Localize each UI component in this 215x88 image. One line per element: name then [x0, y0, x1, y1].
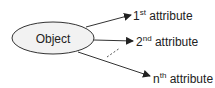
ordinal-suffix: nd — [143, 34, 152, 43]
attribute-text: attribute — [152, 35, 199, 49]
arrow-nth-attribute — [78, 52, 150, 76]
attribute-label-n: nth attribute — [153, 73, 213, 85]
ellipsis-dashed-line — [107, 48, 120, 57]
arrow-2nd-attribute — [94, 40, 133, 41]
attribute-label-1: 1st attribute — [133, 10, 193, 22]
attribute-text: attribute — [166, 72, 213, 86]
attribute-label-2: 2nd attribute — [136, 36, 198, 48]
object-attributes-diagram: Object 1st attribute 2nd attribute nth a… — [0, 0, 215, 88]
attribute-index: 2 — [136, 35, 143, 49]
attribute-index: n — [153, 72, 160, 86]
object-label: Object — [33, 32, 73, 46]
attribute-index: 1 — [133, 9, 140, 23]
attribute-text: attribute — [146, 9, 193, 23]
ordinal-suffix: st — [140, 8, 146, 17]
ordinal-suffix: th — [160, 71, 167, 80]
arrow-1st-attribute — [86, 15, 131, 27]
